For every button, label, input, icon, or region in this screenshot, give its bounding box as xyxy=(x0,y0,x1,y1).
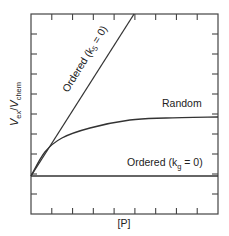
axis-ticks xyxy=(31,14,218,214)
y-axis-label: Vex/Vchem xyxy=(8,82,23,126)
series-label-ordered-k5: Ordered (k5 = 0) xyxy=(59,23,111,95)
series-line-ordered-k5 xyxy=(31,14,134,176)
x-axis-label: [P] xyxy=(118,217,131,229)
chart: Ordered (k5 = 0) Random Ordered (kg = 0)… xyxy=(0,0,229,236)
plot-frame xyxy=(31,14,218,214)
series-label-random: Random xyxy=(162,97,202,109)
series-label-ordered-kg: Ordered (kg = 0) xyxy=(127,156,203,171)
series-lines xyxy=(31,14,218,176)
